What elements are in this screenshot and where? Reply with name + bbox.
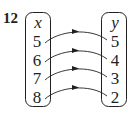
codomain-value: 3 <box>105 70 125 87</box>
arrow-6-to-4 <box>45 51 107 62</box>
arrowhead-icon <box>72 85 79 90</box>
arrowhead-icon <box>72 48 79 53</box>
codomain-value: 4 <box>105 52 125 69</box>
domain-value: 8 <box>27 89 47 106</box>
arrow-8-to-2 <box>45 88 107 99</box>
domain-value: 5 <box>27 33 47 50</box>
arrow-7-to-3 <box>45 69 107 80</box>
arrow-5-to-5 <box>45 32 107 43</box>
codomain-value: 5 <box>105 33 125 50</box>
arrowhead-icon <box>72 66 79 71</box>
codomain-label: y <box>105 14 125 31</box>
domain-label: x <box>28 14 48 31</box>
codomain-value: 2 <box>105 89 125 106</box>
domain-value: 6 <box>27 52 47 69</box>
domain-value: 7 <box>27 70 47 87</box>
arrowhead-icon <box>72 29 79 34</box>
